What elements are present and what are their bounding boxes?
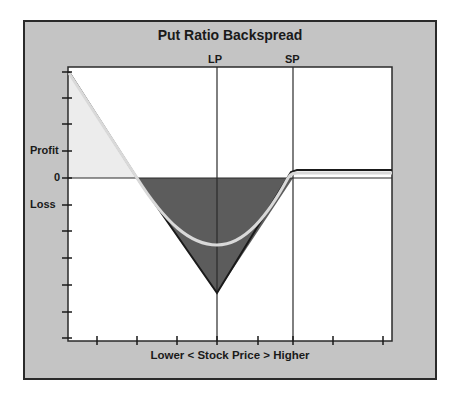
plot-area <box>0 0 460 403</box>
y-label-profit: Profit <box>30 144 59 156</box>
y-label-loss: Loss <box>30 198 56 210</box>
x-axis-label: Lower < Stock Price > Higher <box>68 349 392 361</box>
sp-label: SP <box>285 53 300 65</box>
lp-label: LP <box>208 53 222 65</box>
y-label-zero: 0 <box>54 171 60 183</box>
